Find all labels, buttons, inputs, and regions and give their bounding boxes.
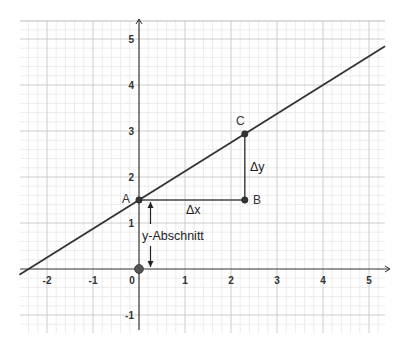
x-tick-label: 1: [182, 275, 188, 286]
x-tick-label: -2: [43, 275, 52, 286]
point-label-b: B: [253, 193, 261, 207]
x-tick-label: 2: [228, 275, 234, 286]
function-graph: -2-1012345-112345 A B C Δx Δy y-Abschnit…: [0, 0, 403, 347]
point-label-c: C: [236, 114, 245, 128]
x-tick-label: 4: [320, 275, 326, 286]
origin-point: [135, 265, 144, 274]
y-tick-label: 2: [128, 172, 134, 183]
y-tick-label: 4: [128, 80, 134, 91]
delta-y-label: Δy: [250, 160, 265, 174]
y-tick-label: 5: [128, 34, 134, 45]
point-c: [242, 131, 248, 137]
x-tick-label: 5: [366, 275, 372, 286]
y-intercept-label: y-Abschnitt: [142, 229, 204, 243]
y-tick-label: 1: [128, 218, 134, 229]
axes: [20, 19, 390, 330]
y-tick-label: -1: [125, 310, 134, 321]
point-label-a: A: [122, 192, 130, 206]
x-tick-label: 3: [274, 275, 280, 286]
y-tick-label: 3: [128, 126, 134, 137]
x-tick-label: 0: [129, 275, 135, 286]
point-a: [136, 197, 142, 203]
delta-x-label: Δx: [186, 203, 201, 217]
point-b: [242, 197, 248, 203]
x-tick-label: -1: [89, 275, 98, 286]
